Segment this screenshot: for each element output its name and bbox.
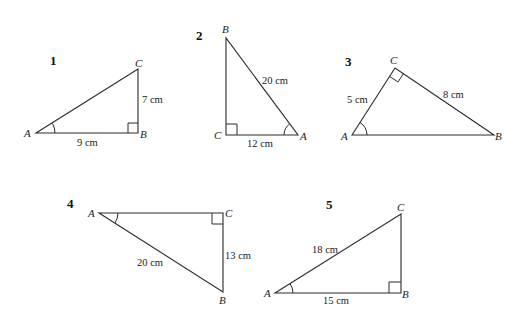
vertex-label-c: C [214,129,222,141]
side-length-bc: 7 cm [142,94,163,105]
vertex-label-c: C [225,207,233,219]
triangle-5-shape [275,214,401,293]
problem-number-4: 4 [67,196,74,211]
triangle-1: 1 A B C 9 cm 7 cm [23,53,163,148]
side-length-cb: 13 cm [225,250,251,261]
vertex-label-a: A [263,287,271,299]
right-angle-marker-icon [390,74,404,83]
vertex-label-c: C [390,54,398,66]
vertex-label-a: A [340,130,348,142]
problem-number-5: 5 [326,197,333,212]
angle-arc-icon [284,124,290,135]
triangle-1-shape [36,69,138,133]
right-angle-marker-icon [212,213,223,224]
right-angle-marker-icon [226,124,237,135]
angle-arc-icon [290,284,293,294]
side-length-ab: 20 cm [137,257,163,268]
side-length-ca: 12 cm [247,138,273,149]
right-angle-marker-icon [389,282,401,293]
vertex-label-c: C [397,201,405,213]
vertex-label-b: B [402,288,409,300]
angle-arc-icon [360,123,367,136]
triangle-5: 5 A B C 18 cm 15 cm [263,197,409,306]
problem-number-3: 3 [345,54,352,69]
side-length-ac: 18 cm [312,244,338,255]
side-length-ab: 20 cm [262,75,288,86]
triangle-2: 2 B C A 20 cm 12 cm [196,23,307,149]
side-length-cb: 8 cm [443,89,464,100]
triangle-2-shape [226,38,298,135]
side-length-ac: 5 cm [347,94,368,105]
right-angle-marker-icon [128,123,138,133]
triangle-diagrams: 1 A B C 9 cm 7 cm 2 B C A 20 cm 12 cm 3 … [0,0,523,325]
angle-arc-icon [53,124,56,134]
vertex-label-a: A [299,130,307,142]
vertex-label-c: C [135,57,143,69]
vertex-label-b: B [219,294,226,306]
vertex-label-a: A [87,207,95,219]
angle-arc-icon [115,213,118,223]
side-length-ab: 9 cm [77,137,98,148]
vertex-label-b: B [495,130,502,142]
side-length-ab: 15 cm [323,295,349,306]
vertex-label-b: B [140,128,147,140]
vertex-label-b: B [222,23,229,35]
triangle-4-shape [99,213,223,292]
problem-number-2: 2 [196,28,203,43]
problem-number-1: 1 [50,53,57,68]
triangle-3-shape [352,68,494,135]
triangle-4: 4 A C B 20 cm 13 cm [67,196,251,306]
triangle-3: 3 C A B 5 cm 8 cm [340,54,502,142]
vertex-label-a: A [23,127,31,139]
